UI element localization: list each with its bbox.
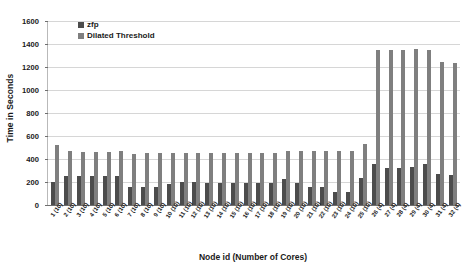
bar-group	[421, 21, 434, 205]
x-label-slot: 17 (10)	[253, 206, 266, 246]
bar-dilated-threshold	[171, 153, 175, 205]
bar-dilated-threshold	[81, 152, 85, 205]
bar-group	[87, 21, 100, 205]
y-tick-label: 1400	[5, 40, 39, 49]
x-label-slot: 5 (10)	[99, 206, 112, 246]
bar-dilated-threshold	[235, 153, 239, 205]
x-label-slot: 30 (4)	[420, 206, 433, 246]
bar-dilated-threshold	[376, 50, 380, 205]
legend-entry: zfp	[78, 20, 155, 29]
bar-group	[446, 21, 459, 205]
bar-group	[344, 21, 357, 205]
x-label-slot: 20 (10)	[291, 206, 304, 246]
bar-group	[126, 21, 139, 205]
x-label-slot: 25 (10)	[356, 206, 369, 246]
bar-chart: Time in Seconds 020040060080010001200140…	[0, 0, 475, 272]
bar-group	[62, 21, 75, 205]
bar-group	[331, 21, 344, 205]
y-tick-label: 800	[5, 109, 39, 118]
x-label-slot: 2 (10)	[61, 206, 74, 246]
bar-group	[49, 21, 62, 205]
x-label-slot: 14 (10)	[215, 206, 228, 246]
x-label-slot: 24 (10)	[343, 206, 356, 246]
bar-dilated-threshold	[260, 153, 264, 205]
x-label-slot: 13 (10)	[202, 206, 215, 246]
x-label-slot: 9 (10)	[151, 206, 164, 246]
x-axis-title: Node id (Number of Cores)	[47, 252, 459, 262]
bar-dilated-threshold	[145, 153, 149, 205]
bar-group	[382, 21, 395, 205]
x-label-slot: 15 (10)	[227, 206, 240, 246]
bar-group	[267, 21, 280, 205]
x-label-slot: 28 (4)	[394, 206, 407, 246]
bar-group	[216, 21, 229, 205]
bar-group	[100, 21, 113, 205]
bar-dilated-threshold	[427, 50, 431, 205]
legend-label: Dilated Threshold	[87, 31, 155, 40]
bar-dilated-threshold	[350, 151, 354, 205]
bar-group	[280, 21, 293, 205]
bar-dilated-threshold	[196, 153, 200, 205]
bar-group	[164, 21, 177, 205]
bar-dilated-threshold	[414, 49, 418, 205]
x-label-slot: 7 (10)	[125, 206, 138, 246]
x-label-slot: 26 (4)	[368, 206, 381, 246]
x-label-slot: 10 (10)	[163, 206, 176, 246]
plot-area: 02004006008001000120014001600	[47, 21, 460, 206]
bar-dilated-threshold	[299, 151, 303, 205]
bar-group	[113, 21, 126, 205]
x-label-slot: 4 (10)	[86, 206, 99, 246]
bar-group	[357, 21, 370, 205]
bar-group	[203, 21, 216, 205]
bar-dilated-threshold	[68, 151, 72, 205]
y-tick-label: 400	[5, 155, 39, 164]
bar-dilated-threshold	[273, 153, 277, 205]
x-label-slot: 22 (10)	[317, 206, 330, 246]
x-label-slot: 19 (10)	[279, 206, 292, 246]
bar-dilated-threshold	[337, 151, 341, 205]
bar-dilated-threshold	[312, 151, 316, 205]
bar-group	[318, 21, 331, 205]
bar-dilated-threshold	[184, 153, 188, 205]
y-tick-label: 200	[5, 178, 39, 187]
bar-dilated-threshold	[401, 50, 405, 205]
bar-dilated-threshold	[94, 152, 98, 205]
bar-dilated-threshold	[453, 63, 457, 205]
x-label-slot: 8 (10)	[138, 206, 151, 246]
bar-dilated-threshold	[363, 144, 367, 205]
bar-group	[292, 21, 305, 205]
bar-dilated-threshold	[222, 153, 226, 205]
x-label-slot: 23 (10)	[330, 206, 343, 246]
bars-layer	[48, 21, 460, 205]
bar-group	[190, 21, 203, 205]
x-label-slot: 16 (10)	[240, 206, 253, 246]
chart-legend: zfpDilated Threshold	[78, 20, 155, 42]
x-label-slot: 12 (10)	[189, 206, 202, 246]
bar-group	[241, 21, 254, 205]
x-label-slot: 6 (10)	[112, 206, 125, 246]
legend-entry: Dilated Threshold	[78, 31, 155, 40]
bar-group	[408, 21, 421, 205]
x-label-slot: 31 (4)	[432, 206, 445, 246]
bar-dilated-threshold	[119, 151, 123, 205]
bar-group	[75, 21, 88, 205]
x-label-slot: 21 (10)	[304, 206, 317, 246]
legend-swatch-icon	[78, 22, 84, 28]
bar-dilated-threshold	[158, 153, 162, 205]
bar-group	[228, 21, 241, 205]
bar-group	[395, 21, 408, 205]
x-label-slot: 3 (10)	[74, 206, 87, 246]
bar-dilated-threshold	[286, 151, 290, 205]
bar-dilated-threshold	[55, 145, 59, 205]
bar-group	[305, 21, 318, 205]
legend-swatch-icon	[78, 33, 84, 39]
bar-dilated-threshold	[440, 62, 444, 205]
bar-group	[139, 21, 152, 205]
legend-label: zfp	[87, 20, 99, 29]
bar-group	[433, 21, 446, 205]
bar-group	[177, 21, 190, 205]
y-tick-label: 600	[5, 132, 39, 141]
bar-group	[369, 21, 382, 205]
y-tick-label: 1200	[5, 63, 39, 72]
x-label-slot: 29 (4)	[407, 206, 420, 246]
